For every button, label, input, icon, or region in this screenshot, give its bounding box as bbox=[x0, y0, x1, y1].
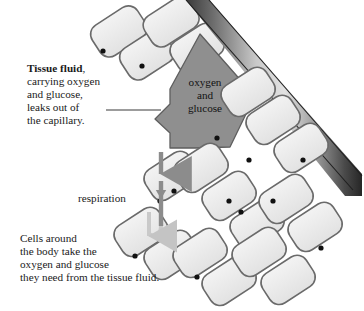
cells-caption-line-0: Cells around bbox=[20, 232, 77, 244]
respiration-annotation: respiration bbox=[78, 192, 126, 205]
cells-caption-line-1: the body take the bbox=[20, 245, 97, 257]
cells-caption-line-3: they need from the tissue fluid. bbox=[20, 271, 159, 283]
oxygen-glucose-line-1: and bbox=[197, 89, 213, 101]
diagram-canvas: Tissue fluid, carrying oxygen and glucos… bbox=[0, 0, 364, 311]
tissue-fluid-line-4: the capillary. bbox=[27, 114, 85, 126]
oxygen-glucose-line-0: oxygen bbox=[189, 76, 222, 88]
cells-caption-annotation: Cells around the body take the oxygen an… bbox=[20, 232, 159, 284]
cells-caption-line-2: oxygen and glucose bbox=[20, 258, 109, 270]
tissue-fluid-line-0: , bbox=[82, 62, 88, 74]
oxygen-and-glucose-annotation: oxygen and glucose bbox=[167, 76, 243, 115]
tissue-fluid-line-3: leaks out of bbox=[27, 101, 79, 113]
tissue-fluid-line-2: and glucose, bbox=[27, 88, 83, 100]
tissue-fluid-line-1: carrying oxygen bbox=[27, 75, 100, 87]
tissue-fluid-annotation: Tissue fluid, carrying oxygen and glucos… bbox=[27, 62, 100, 127]
tissue-fluid-lead: Tissue fluid bbox=[27, 62, 82, 74]
oxygen-glucose-line-2: glucose bbox=[188, 102, 222, 114]
